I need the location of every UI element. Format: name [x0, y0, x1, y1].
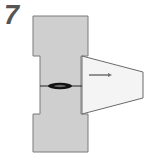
diagram	[0, 0, 155, 159]
tapered-wedge	[82, 56, 143, 114]
